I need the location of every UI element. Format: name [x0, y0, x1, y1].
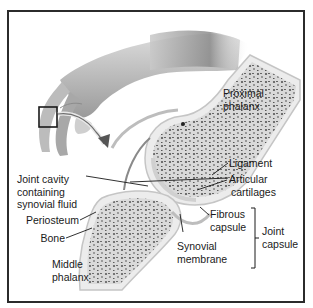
label-proximal-phalanx: Proximal phalanx — [223, 87, 264, 112]
label-synovial-membrane: Synovial membrane — [177, 240, 227, 265]
label-joint-capsule: Joint capsule — [262, 225, 298, 250]
joint-illustration — [0, 0, 313, 308]
proximal-phalanx-bone — [145, 55, 300, 205]
label-fibrous-capsule: Fibrous capsule — [210, 208, 246, 233]
label-joint-cavity: Joint cavity containing synovial fluid — [17, 173, 77, 211]
label-ligament: Ligament — [229, 157, 272, 170]
joint-capsule-bracket — [251, 208, 259, 268]
label-middle-phalanx: Middle phalanx — [52, 258, 89, 283]
label-periosteum: Periosteum — [25, 214, 79, 227]
label-articular-cartilages: Articular cartilages — [229, 173, 276, 198]
middle-phalanx-bone — [79, 191, 181, 290]
diagram-stage: Proximal phalanx Joint cavity containing… — [0, 0, 313, 308]
label-bone: Bone — [25, 232, 65, 245]
